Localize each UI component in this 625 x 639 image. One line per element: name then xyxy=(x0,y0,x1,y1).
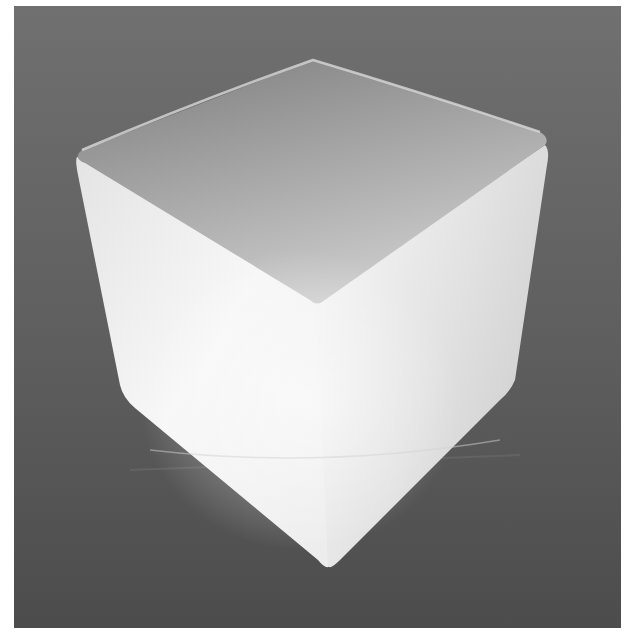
light-glow xyxy=(140,250,460,550)
cube-photograph xyxy=(0,0,625,639)
cube-image xyxy=(0,0,625,639)
